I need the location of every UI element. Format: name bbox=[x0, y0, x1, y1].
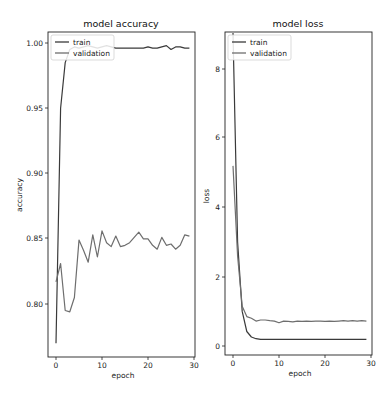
loss-validation-line bbox=[233, 166, 366, 323]
loss-xtick: 30 bbox=[366, 359, 376, 368]
accuracy-plot: model accuracy 1.00 0.95 0.90 0.85 0.80 … bbox=[15, 18, 199, 380]
accuracy-validation-line bbox=[56, 231, 189, 312]
loss-axes-frame bbox=[225, 32, 372, 355]
loss-ytick: 8 bbox=[215, 65, 220, 74]
accuracy-xlabel: epoch bbox=[112, 371, 135, 380]
accuracy-ytick: 0.90 bbox=[26, 169, 43, 178]
accuracy-ytick: 1.00 bbox=[26, 39, 43, 48]
accuracy-x-ticks: 0 10 20 30 bbox=[54, 357, 199, 370]
accuracy-legend: train validation bbox=[51, 35, 114, 60]
legend-train-label: train bbox=[250, 38, 268, 47]
loss-xtick: 20 bbox=[320, 359, 330, 368]
accuracy-ytick: 0.95 bbox=[26, 104, 43, 113]
loss-ytick: 4 bbox=[215, 203, 220, 212]
loss-plot: model loss 8 6 4 2 0 0 10 20 30 epoch bbox=[202, 18, 376, 378]
loss-ytick: 6 bbox=[215, 133, 220, 142]
loss-xlabel: epoch bbox=[289, 369, 312, 378]
loss-ytick: 2 bbox=[215, 273, 220, 282]
loss-ytick: 0 bbox=[215, 342, 220, 351]
accuracy-title: model accuracy bbox=[83, 18, 159, 29]
loss-title: model loss bbox=[273, 18, 324, 29]
accuracy-axes-frame bbox=[48, 32, 195, 357]
accuracy-xtick: 20 bbox=[143, 361, 153, 370]
loss-xtick: 0 bbox=[231, 359, 236, 368]
accuracy-train-line bbox=[56, 46, 189, 344]
accuracy-xtick: 10 bbox=[97, 361, 107, 370]
loss-xtick: 10 bbox=[274, 359, 284, 368]
accuracy-xtick: 30 bbox=[189, 361, 199, 370]
loss-ylabel: loss bbox=[202, 189, 211, 204]
accuracy-y-ticks: 1.00 0.95 0.90 0.85 0.80 bbox=[26, 39, 48, 309]
legend-validation-label: validation bbox=[73, 49, 110, 58]
accuracy-ytick: 0.85 bbox=[26, 234, 43, 243]
accuracy-ytick: 0.80 bbox=[26, 300, 43, 309]
loss-y-ticks: 8 6 4 2 0 bbox=[215, 65, 225, 351]
figure: model accuracy 1.00 0.95 0.90 0.85 0.80 … bbox=[0, 0, 390, 396]
loss-legend: train validation bbox=[228, 35, 291, 60]
legend-validation-label: validation bbox=[250, 49, 287, 58]
loss-train-line bbox=[233, 33, 366, 339]
loss-x-ticks: 0 10 20 30 bbox=[231, 355, 376, 368]
accuracy-xtick: 0 bbox=[54, 361, 59, 370]
accuracy-ylabel: accuracy bbox=[15, 178, 24, 212]
legend-train-label: train bbox=[73, 38, 91, 47]
